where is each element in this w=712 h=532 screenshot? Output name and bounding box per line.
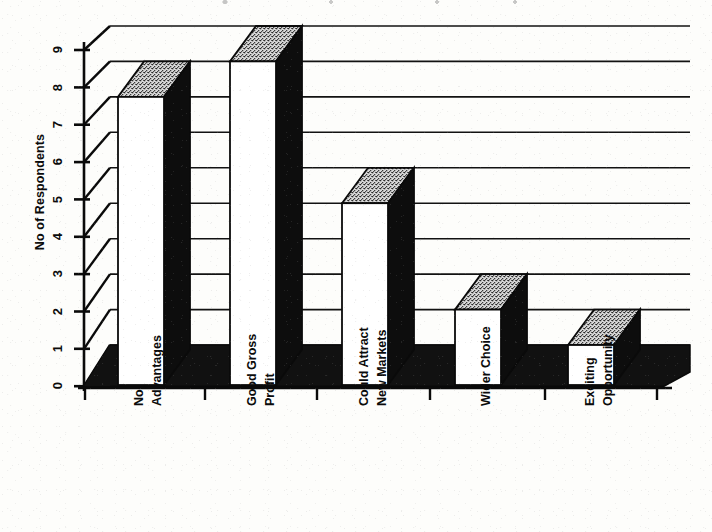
- y-tick-4: 4: [51, 226, 64, 248]
- x-tick-label-exciting-opportunity: Exciting: [583, 357, 598, 406]
- x-tick-label-exciting-opportunity-2: Opportunity: [601, 334, 616, 406]
- bar-chart: No of Respondents: [0, 0, 712, 532]
- x-label-line2: Profit: [263, 373, 278, 406]
- y-tick-8: 8: [51, 77, 64, 99]
- x-tick-label-good-gross-profit: Good Gross: [245, 334, 260, 406]
- y-tick-0: 0: [51, 375, 64, 397]
- y-tick-6: 6: [51, 151, 64, 173]
- x-tick-label-could-attract-new-markets-2: New Markets: [375, 330, 390, 406]
- y-tick-2: 2: [51, 301, 64, 323]
- x-label-line1: Wider Choice: [479, 326, 493, 406]
- y-tick-1: 1: [51, 338, 64, 360]
- x-tick-label-no-advantages: No: [132, 389, 147, 406]
- x-label-line1: Good Gross: [245, 334, 259, 406]
- x-label-line2: New Markets: [375, 330, 390, 406]
- x-tick-label-could-attract-new-markets: Could Attract: [357, 327, 372, 406]
- y-tick-7: 7: [51, 114, 64, 136]
- x-label-line2: Advantages: [150, 335, 165, 406]
- y-tick-labels: 9 8 7 6 5 4 3 2 1 0: [0, 0, 712, 532]
- x-label-line2: Opportunity: [601, 334, 616, 406]
- x-label-line1: Exciting: [583, 357, 597, 406]
- y-tick-5: 5: [51, 189, 64, 211]
- x-label-line1: Could Attract: [357, 327, 371, 406]
- x-tick-label-good-gross-profit-2: Profit: [263, 373, 278, 406]
- x-tick-label-no-advantages-2: Advantages: [150, 335, 165, 406]
- x-label-line1: No: [132, 389, 146, 406]
- y-tick-9: 9: [51, 39, 64, 61]
- x-tick-label-wider-choice: Wider Choice: [479, 326, 494, 406]
- y-tick-3: 3: [51, 263, 64, 285]
